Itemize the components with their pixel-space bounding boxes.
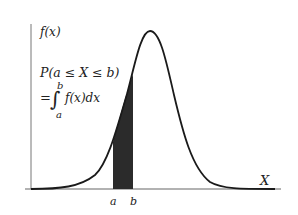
x-axis-label: X (259, 173, 270, 188)
tick-a-label: a (110, 195, 117, 208)
y-axis-label: f(x) (39, 25, 61, 39)
tick-b-label: b (130, 195, 137, 208)
integrand: f(x)dx (64, 91, 100, 105)
integral-upper-limit: b (57, 80, 63, 91)
bell-curve (31, 31, 275, 189)
integral-lower-limit: a (56, 109, 62, 120)
normal-distribution-diagram: f(x) P(a ≤ X ≤ b) = ∫ b a f(x)dx X a b (0, 0, 298, 215)
probability-label: P(a ≤ X ≤ b) (39, 65, 119, 80)
